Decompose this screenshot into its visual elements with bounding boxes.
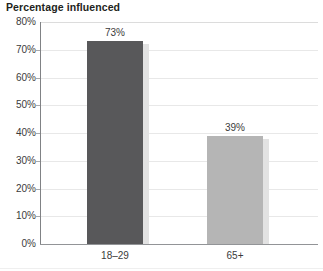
bar[interactable] [87, 41, 143, 244]
x-axis-category-label: 65+ [195, 250, 275, 261]
bar-shadow [143, 44, 149, 244]
y-axis-tick-mark [36, 78, 40, 79]
bar[interactable] [207, 136, 263, 244]
y-axis-tick-mark [36, 105, 40, 106]
y-axis-tick-mark [36, 216, 40, 217]
y-axis-tick-mark [36, 161, 40, 162]
x-axis-category-label: 18–29 [75, 250, 155, 261]
bars-layer: 73%18–2939%65+ [0, 0, 323, 271]
bar-value-label: 39% [204, 122, 266, 133]
bar-value-label: 73% [84, 27, 146, 38]
y-axis-tick-mark [36, 50, 40, 51]
bar-chart: Percentage influenced 80%70%60%50%40%30%… [0, 0, 323, 271]
y-axis-tick-mark [36, 133, 40, 134]
y-axis-tick-mark [36, 189, 40, 190]
bar-shadow [263, 139, 269, 244]
